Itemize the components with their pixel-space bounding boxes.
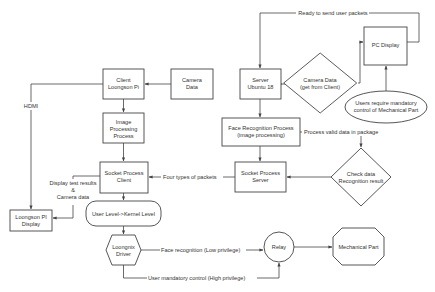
label-hdmi: HDMI xyxy=(24,103,39,109)
svg-text:Mechanical Part: Mechanical Part xyxy=(338,244,379,250)
node-loongnix-driver: Loongnix Driver xyxy=(106,235,141,265)
node-server-ubuntu: Server Ubuntu 18 xyxy=(240,69,281,99)
node-client-loongson: Client Loongson Pi xyxy=(103,69,144,99)
svg-text:PC Display: PC Display xyxy=(372,42,400,48)
svg-text:Users require mandatory: Users require mandatory xyxy=(355,100,417,106)
node-socket-server: Socket Process Server xyxy=(235,162,286,192)
svg-text:Relay: Relay xyxy=(272,244,287,250)
svg-text:Face Recognition Process: Face Recognition Process xyxy=(228,125,293,131)
svg-text:Ubuntu 18: Ubuntu 18 xyxy=(248,84,274,90)
svg-text:Client: Client xyxy=(116,77,131,83)
svg-text:Display: Display xyxy=(22,221,41,227)
svg-text:(image processing): (image processing) xyxy=(237,132,285,138)
edge-camera-diamond-to-pc xyxy=(358,42,363,83)
node-check-data: Check data Recognition result xyxy=(331,148,391,206)
svg-text:Data: Data xyxy=(186,84,199,90)
svg-text:Socket Process: Socket Process xyxy=(241,170,280,176)
svg-text:Process: Process xyxy=(113,133,133,139)
svg-text:Image: Image xyxy=(116,119,132,125)
svg-text:control of Mechanical Part: control of Mechanical Part xyxy=(354,107,419,113)
label-display-results-line1: Display test results xyxy=(50,180,97,186)
flowchart-canvas: HDMI Ready to send user packets Process … xyxy=(0,0,435,292)
svg-text:Check data: Check data xyxy=(347,171,376,177)
label-display-results-line3: Camera data xyxy=(57,194,90,200)
node-image-processing: Image Processing Process xyxy=(103,113,144,143)
node-mechanical-part: Mechanical Part xyxy=(333,228,384,265)
svg-text:(get from Client): (get from Client) xyxy=(300,84,340,90)
svg-text:Camera: Camera xyxy=(182,77,203,83)
svg-text:Driver: Driver xyxy=(116,251,131,257)
svg-text:Loongnix: Loongnix xyxy=(112,244,135,250)
node-pc-display: PC Display xyxy=(364,27,407,65)
node-relay: Relay xyxy=(264,232,294,262)
svg-text:Server: Server xyxy=(252,77,269,83)
edge-labels: HDMI Ready to send user packets Process … xyxy=(20,9,382,282)
svg-text:User Level->Kernel Level: User Level->Kernel Level xyxy=(92,211,155,217)
node-camera-data: Camera Data xyxy=(171,69,213,99)
svg-text:Loongson PI: Loongson PI xyxy=(15,214,47,220)
label-user-high: User mandatory control (High privilege) xyxy=(148,275,245,281)
label-face-low: Face recognition (Low privilege) xyxy=(161,247,240,253)
label-process-valid: Process valid data in package xyxy=(304,129,378,135)
node-user-kernel: User Level->Kernel Level xyxy=(86,201,161,226)
svg-text:Socket Process: Socket Process xyxy=(105,170,144,176)
label-four-types: Four types of packets xyxy=(163,174,217,180)
label-display-results-line2: & xyxy=(71,187,75,193)
node-face-recognition: Face Recognition Process (image processi… xyxy=(222,118,300,146)
node-socket-client: Socket Process Client xyxy=(100,162,148,193)
svg-text:Recognition result: Recognition result xyxy=(339,178,384,184)
svg-text:Loongson Pi: Loongson Pi xyxy=(108,84,139,90)
label-ready-to-send: Ready to send user packets xyxy=(298,10,368,16)
node-loongson-display: Loongson PI Display xyxy=(10,210,52,231)
svg-text:Client: Client xyxy=(117,177,132,183)
node-users-require: Users require mandatory control of Mecha… xyxy=(345,91,427,123)
svg-text:Server: Server xyxy=(252,177,269,183)
svg-text:Camera Data: Camera Data xyxy=(303,77,337,83)
svg-text:Processing: Processing xyxy=(110,126,138,132)
